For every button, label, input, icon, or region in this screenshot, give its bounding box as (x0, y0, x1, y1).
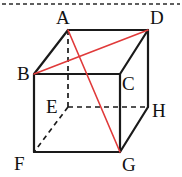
diagonal-AG (68, 30, 120, 152)
vertex-label-a: A (56, 7, 70, 28)
vertex-label-e: E (46, 96, 58, 117)
vertex-label-g: G (122, 154, 136, 175)
vertex-label-b: B (17, 63, 30, 84)
vertex-label-h: H (152, 100, 166, 121)
edge-GH (120, 107, 148, 152)
vertex-label-c: C (122, 73, 135, 94)
vertex-label-d: D (150, 7, 164, 28)
vertex-label-f: F (14, 153, 25, 174)
edge-DC (120, 30, 148, 74)
cube-figure: ABCDEFGH (0, 0, 182, 177)
cube-diagram-canvas: ABCDEFGH (0, 0, 182, 177)
